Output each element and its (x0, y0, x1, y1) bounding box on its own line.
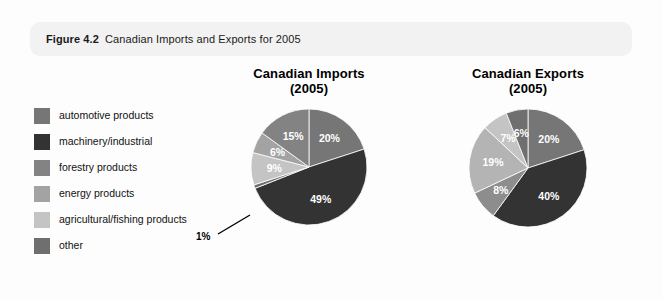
chart-legend: automotive products machinery/industrial… (34, 108, 209, 264)
pie-slice-label: 20% (538, 133, 560, 145)
pie-title-imports: Canadian Imports (228, 66, 390, 81)
figure-caption-text: Canadian Imports and Exports for 2005 (105, 33, 301, 45)
legend-swatch-other (34, 238, 50, 254)
pie-slice-label: 15% (283, 130, 305, 142)
callout-one-percent: 1% (196, 226, 210, 244)
callout-label: 1% (196, 231, 210, 242)
pie-slice-label: 9% (267, 162, 283, 174)
legend-item: automotive products (34, 108, 209, 125)
pie-slice-label: 40% (538, 190, 560, 202)
legend-swatch-agricultural-fishing-products (34, 212, 50, 228)
pie-svg-exports: 20%40%8%19%7%6% (468, 108, 588, 228)
pie-slice-label: 20% (319, 132, 341, 144)
pie-title-exports: Canadian Exports (447, 66, 609, 81)
legend-item: machinery/industrial (34, 134, 209, 151)
legend-label-agricultural-fishing-products: agricultural/fishing products (59, 212, 187, 225)
pie-subtitle-imports: (2005) (228, 81, 390, 96)
legend-label-energy-products: energy products (59, 186, 134, 199)
legend-swatch-forestry-products (34, 160, 50, 176)
legend-label-machinery-industrial: machinery/industrial (59, 134, 152, 147)
figure-number-label: Figure 4.2 (46, 33, 99, 45)
figure-caption-bar: Figure 4.2 Canadian Imports and Exports … (30, 22, 632, 56)
legend-label-forestry-products: forestry products (59, 160, 137, 173)
pie-slice-label: 49% (310, 193, 332, 205)
pie-slice-label: 19% (483, 156, 505, 168)
pie-slice-label: 6% (514, 127, 530, 139)
pie-svg-imports: 20%49%9%6%15% (250, 108, 368, 226)
legend-item: forestry products (34, 160, 209, 177)
legend-item: agricultural/fishing products (34, 212, 209, 229)
figure-container: Figure 4.2 Canadian Imports and Exports … (0, 0, 662, 299)
pie-subtitle-exports: (2005) (447, 81, 609, 96)
pie-chart-canadian-exports: Canadian Exports (2005) 20%40%8%19%7%6% (447, 66, 609, 228)
pie-slice-label: 8% (493, 184, 509, 196)
legend-swatch-machinery-industrial (34, 134, 50, 150)
pie-chart-canadian-imports: Canadian Imports (2005) 20%49%9%6%15% (228, 66, 390, 226)
legend-label-automotive-products: automotive products (59, 108, 154, 121)
legend-item: energy products (34, 186, 209, 203)
legend-swatch-energy-products (34, 186, 50, 202)
legend-label-other: other (59, 238, 83, 251)
legend-item: other (34, 238, 209, 255)
legend-swatch-automotive-products (34, 108, 50, 124)
